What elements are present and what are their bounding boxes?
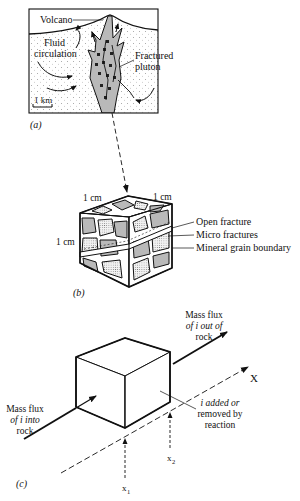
dim-left: 1 cm: [56, 237, 75, 247]
zoom-connector-arrow: [112, 113, 127, 192]
svg-text:of i into: of i into: [10, 415, 40, 425]
fluid-label-line1: Fluid: [44, 37, 65, 48]
x2-subscript: 2: [172, 458, 175, 465]
svg-text:i added or: i added or: [200, 398, 239, 408]
x-axis-label: X: [250, 372, 258, 384]
svg-text:Mass flux: Mass flux: [185, 310, 223, 320]
callout-grain-boundary: Mineral grain boundary: [196, 242, 291, 253]
fractured-label-line2: pluton: [135, 61, 161, 72]
control-volume-cube: [76, 338, 170, 428]
panel-b-label: (b): [73, 287, 85, 299]
svg-text:rock: rock: [17, 426, 34, 436]
panel-a-label: (a): [30, 119, 42, 131]
figure: Volcano Fluid circulation Fractured plut…: [0, 0, 300, 501]
callout-micro-fractures: Micro fractures: [196, 229, 258, 240]
callout-open-fracture: Open fracture: [196, 216, 252, 227]
svg-text:rock: rock: [196, 332, 213, 342]
svg-text:removed by: removed by: [197, 409, 242, 419]
fractured-label-line1: Fractured: [135, 50, 173, 61]
panel-c-label: (c): [16, 478, 28, 490]
fluid-label-line2: circulation: [34, 48, 77, 59]
svg-text:Mass flux: Mass flux: [6, 404, 44, 414]
dim-top-right: 1 cm: [153, 192, 172, 202]
volcano-label: Volcano: [40, 14, 73, 25]
x1-subscript: 1: [127, 488, 130, 495]
svg-text:reaction: reaction: [205, 420, 236, 430]
panel-b-rock-cube: [80, 196, 172, 287]
reaction-label: i added or removed by reaction: [197, 398, 242, 430]
svg-text:of i out of: of i out of: [186, 321, 224, 331]
scale-label: 1 km: [34, 95, 52, 105]
dim-top-left: 1 cm: [83, 193, 102, 203]
